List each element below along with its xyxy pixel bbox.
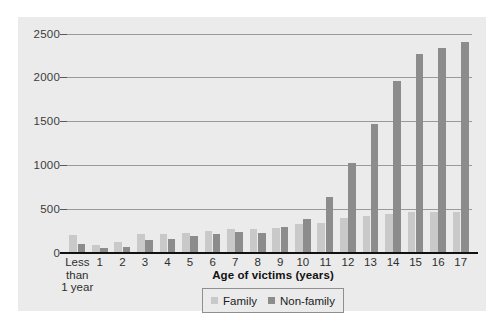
bar-nonfamily: [438, 48, 446, 253]
bar-group: [359, 30, 382, 253]
bar-nonfamily: [326, 197, 334, 253]
y-tick-label-2000: 2000: [34, 71, 60, 83]
bar-family: [317, 223, 325, 253]
legend-swatch-icon: [211, 297, 218, 304]
bar-family: [69, 235, 77, 253]
bar-nonfamily: [461, 42, 469, 253]
bar-group: [134, 30, 157, 253]
bar-nonfamily: [303, 219, 311, 253]
bar-family: [408, 212, 416, 253]
bar-family: [363, 216, 371, 253]
legend-item-non-family[interactable]: Non-family: [268, 294, 335, 307]
bar-nonfamily: [190, 236, 198, 253]
x-tick-label: 17: [443, 256, 478, 269]
bar-nonfamily: [416, 54, 424, 253]
bar-group: [269, 30, 292, 253]
bar-family: [160, 234, 168, 253]
bar-family: [250, 229, 258, 253]
bar-family: [430, 212, 438, 253]
bar-nonfamily: [281, 227, 289, 253]
bar-group: [66, 30, 89, 253]
bar-nonfamily: [371, 124, 379, 253]
y-tick-label-0: 0: [53, 247, 60, 259]
legend-item-family[interactable]: Family: [211, 294, 257, 307]
x-axis-line: [60, 252, 478, 254]
bar-family: [453, 212, 461, 253]
x-axis-title: Age of victims (years): [0, 269, 504, 281]
chart-figure: 05001000150020002500 Less than 1 year123…: [0, 0, 504, 328]
bar-group: [111, 30, 134, 253]
legend-label: Family: [223, 295, 257, 307]
bar-family: [272, 228, 280, 253]
y-tick-label-1000: 1000: [34, 159, 60, 171]
bar-family: [182, 233, 190, 253]
bar-nonfamily: [235, 232, 243, 253]
bar-nonfamily: [393, 81, 401, 253]
bar-group: [156, 30, 179, 253]
bar-group: [449, 30, 472, 253]
bar-group: [427, 30, 450, 253]
bar-group: [246, 30, 269, 253]
chart-legend: FamilyNon-family: [0, 288, 504, 313]
bar-family: [227, 229, 235, 253]
bar-family: [205, 231, 213, 253]
y-axis-tick-labels: 05001000150020002500: [18, 30, 60, 253]
legend-label: Non-family: [280, 295, 335, 307]
legend-box: FamilyNon-family: [202, 288, 344, 313]
bar-nonfamily: [348, 163, 356, 253]
bar-group: [337, 30, 360, 253]
y-tick-label-2500: 2500: [34, 28, 60, 40]
bar-family: [340, 218, 348, 253]
bar-family: [295, 224, 303, 253]
bar-group: [292, 30, 315, 253]
bar-group: [201, 30, 224, 253]
bars-layer: [66, 30, 472, 253]
bar-group: [404, 30, 427, 253]
bar-group: [89, 30, 112, 253]
bar-group: [179, 30, 202, 253]
y-tick-label-500: 500: [40, 203, 60, 215]
bar-family: [385, 214, 393, 253]
legend-swatch-icon: [268, 297, 275, 304]
bar-group: [382, 30, 405, 253]
bar-group: [224, 30, 247, 253]
bar-family: [137, 234, 145, 253]
bar-group: [314, 30, 337, 253]
bar-nonfamily: [258, 233, 266, 253]
bar-nonfamily: [213, 234, 221, 253]
bar-nonfamily: [168, 239, 176, 253]
y-tick-label-1500: 1500: [34, 115, 60, 127]
x-axis-title-text: Age of victims (years): [212, 269, 334, 281]
